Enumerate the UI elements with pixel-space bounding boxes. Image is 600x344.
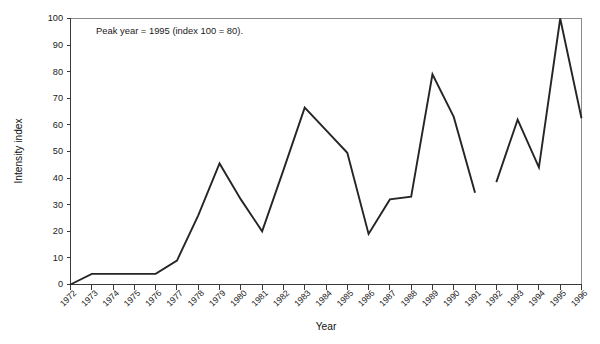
data-series-group — [71, 19, 582, 285]
x-tick-label: 1981 — [249, 288, 270, 309]
x-axis-title: Year — [316, 321, 337, 332]
x-tick-label: 1988 — [398, 288, 419, 309]
line-chart-svg: 0102030405060708090100 19721973197419751… — [0, 0, 600, 344]
x-tick-label: 1974 — [100, 288, 121, 309]
x-tick-group: 1972197319741975197619771978197919801981… — [58, 285, 590, 309]
x-tick-label: 1993 — [505, 288, 526, 309]
x-tick-label: 1973 — [79, 288, 100, 309]
x-tick-label: 1987 — [377, 288, 398, 309]
x-tick-label: 1978 — [186, 288, 207, 309]
x-tick-label: 1979 — [207, 288, 228, 309]
x-tick-label: 1980 — [228, 288, 249, 309]
x-tick-label: 1984 — [313, 288, 334, 309]
y-tick-label: 10 — [53, 253, 63, 263]
y-tick-label: 0 — [58, 279, 63, 289]
y-tick-label: 40 — [53, 173, 63, 183]
y-tick-label: 70 — [53, 93, 63, 103]
x-tick-label: 1975 — [122, 288, 143, 309]
x-tick-label: 1991 — [462, 288, 483, 309]
y-tick-group: 0102030405060708090100 — [48, 13, 71, 289]
x-tick-label: 1986 — [356, 288, 377, 309]
y-tick-label: 80 — [53, 67, 63, 77]
x-tick-label: 1989 — [420, 288, 441, 309]
series-line — [71, 74, 476, 284]
y-tick-label: 20 — [53, 226, 63, 236]
y-tick-label: 90 — [53, 40, 63, 50]
y-tick-label: 100 — [48, 13, 63, 23]
x-tick-label: 1994 — [526, 288, 547, 309]
x-tick-label: 1983 — [292, 288, 313, 309]
x-tick-label: 1992 — [484, 288, 505, 309]
series-line — [496, 19, 581, 183]
x-tick-label: 1996 — [569, 288, 590, 309]
peak-year-annotation: Peak year = 1995 (index 100 = 80). — [96, 25, 243, 36]
x-tick-label: 1995 — [548, 288, 569, 309]
x-tick-label: 1972 — [58, 288, 79, 309]
y-tick-label: 50 — [53, 146, 63, 156]
x-axis: 1972197319741975197619771978197919801981… — [58, 285, 590, 309]
y-axis: 0102030405060708090100 — [48, 13, 71, 289]
x-tick-label: 1977 — [164, 288, 185, 309]
x-tick-label: 1985 — [335, 288, 356, 309]
plot-frame — [71, 19, 582, 285]
x-tick-label: 1982 — [271, 288, 292, 309]
y-tick-label: 60 — [53, 120, 63, 130]
y-axis-title: Intensity index — [13, 118, 24, 183]
chart-figure: 0102030405060708090100 19721973197419751… — [0, 0, 600, 344]
x-tick-label: 1990 — [441, 288, 462, 309]
y-tick-label: 30 — [53, 200, 63, 210]
x-tick-label: 1976 — [143, 288, 164, 309]
